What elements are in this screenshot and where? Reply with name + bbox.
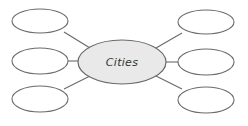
branch-node-right-middle [178,49,234,75]
branch-node-left-top [12,9,68,33]
branch-node-right-top [178,10,234,34]
spider-map-diagram: Cities [0,0,248,126]
branch-node-right-bottom [178,87,234,113]
branch-node-left-middle [12,48,68,74]
connector-line-right-top [156,33,182,48]
diagram-svg: Cities [0,0,248,126]
connector-line-right-bottom [156,76,182,89]
connector-line-left-top [64,32,90,48]
center-node: Cities [78,40,166,84]
center-label: Cities [106,56,138,69]
connector-line-left-bottom [64,76,90,89]
branch-node-left-bottom [12,86,68,112]
